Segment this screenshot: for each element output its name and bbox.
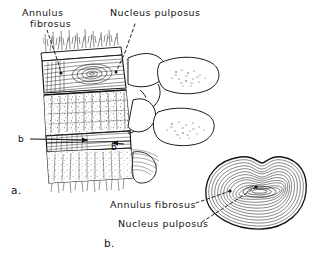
vertebral-arch-structures: [126, 54, 219, 184]
label-annulus-fibrosus-a-line2: fibrosus: [30, 18, 71, 30]
label-annulus-fibrosus-a-line1: Annulus: [22, 7, 63, 19]
disc-cross-section: [196, 157, 306, 229]
label-annulus-fibrosus-b: Annulus fibrosus: [110, 199, 196, 211]
panel-label-b: b.: [104, 237, 115, 249]
label-nucleus-pulposus-b: Nucleus pulposus: [118, 218, 208, 230]
anatomical-figure: Annulus fibrosus Nucleus pulposus Annulu…: [0, 0, 316, 260]
section-marker-b-prime: b′: [111, 142, 119, 152]
spinous-process-lower: [153, 108, 214, 145]
section-marker-b: b: [18, 134, 24, 144]
label-nucleus-pulposus-a: Nucleus pulposus: [110, 7, 200, 19]
spinous-process-upper: [158, 57, 219, 94]
vertebra-body-lower: [46, 148, 136, 193]
panel-label-a: a.: [11, 184, 21, 196]
intervertebral-disc-upper: [42, 55, 126, 93]
